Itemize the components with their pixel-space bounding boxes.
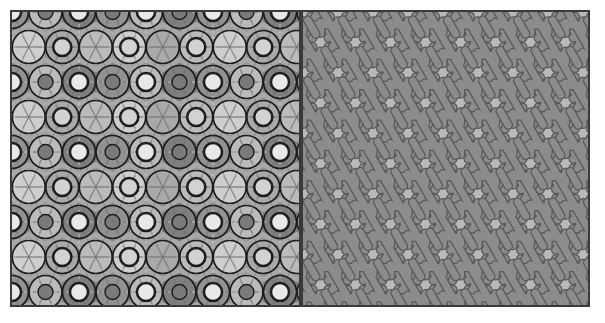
strapwork-panel xyxy=(301,10,590,307)
strapwork-drawing xyxy=(303,12,588,305)
pattern-figure xyxy=(0,0,605,323)
construction-drawing xyxy=(12,12,299,305)
construction-panel xyxy=(10,10,301,307)
